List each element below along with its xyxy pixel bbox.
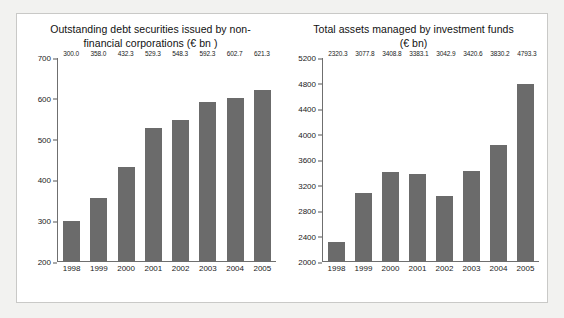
y-axis-tick-label: 2800 <box>298 207 316 216</box>
chart-title: Total assets managed by investment funds… <box>286 22 541 52</box>
chart-total-assets-investment-funds: Total assets managed by investment funds… <box>282 14 547 302</box>
bar: 3830.2 <box>490 145 507 262</box>
x-axis-tick-label: 2003 <box>458 264 485 280</box>
x-axis-tick-label: 2000 <box>377 264 404 280</box>
x-axis-tick-label: 1998 <box>323 264 350 280</box>
bar: 3408.8 <box>382 172 399 262</box>
charts-row: Outstanding debt securities issued by no… <box>17 14 547 302</box>
chart-title-line1: Total assets managed by investment funds <box>286 22 541 36</box>
bar-value-label: 2320.3 <box>328 50 347 57</box>
y-axis-tick-label: 500 <box>38 135 51 144</box>
bar: 3042.9 <box>436 196 453 262</box>
bar-group: 3408.8 <box>377 58 404 262</box>
x-axis-tick-label: 2001 <box>404 264 431 280</box>
x-axis-tick-label: 1999 <box>85 264 112 280</box>
bar: 621.3 <box>254 90 271 262</box>
x-axis-tick-label: 1999 <box>350 264 377 280</box>
x-axis-tick-label: 2002 <box>167 264 194 280</box>
bar-value-label: 621.3 <box>254 50 270 57</box>
y-axis-tick-label: 5200 <box>298 54 316 63</box>
y-axis: 200024002800320036004000440048005200 <box>286 58 322 262</box>
y-axis-tick-label: 3600 <box>298 156 316 165</box>
chart-title-line1: Outstanding debt securities issued by no… <box>23 22 278 36</box>
x-axis-tick-label: 2004 <box>485 264 512 280</box>
bar-group: 4793.3 <box>512 58 539 262</box>
y-axis-tick-label: 3200 <box>298 181 316 190</box>
bar: 358.0 <box>90 198 107 262</box>
bar-group: 3420.6 <box>458 58 485 262</box>
x-axis-tick-label: 2005 <box>249 264 276 280</box>
bar: 3077.8 <box>355 193 372 262</box>
x-axis-tick-label: 2001 <box>140 264 167 280</box>
y-axis-tick-label: 700 <box>38 54 51 63</box>
bar: 2320.3 <box>328 242 345 262</box>
bar-value-label: 3042.9 <box>436 50 455 57</box>
bar: 300.0 <box>63 221 80 262</box>
bar-group: 3830.2 <box>485 58 512 262</box>
bar-value-label: 529.3 <box>145 50 161 57</box>
bar: 3383.1 <box>409 174 426 262</box>
x-axis-tick-label: 2005 <box>512 264 539 280</box>
bar-value-label: 3077.8 <box>355 50 374 57</box>
bar-group: 548.3 <box>167 58 194 262</box>
y-axis-tick-label: 200 <box>38 258 51 267</box>
y-axis-tick-label: 600 <box>38 94 51 103</box>
bar-value-label: 548.3 <box>172 50 188 57</box>
bar-value-label: 592.3 <box>199 50 215 57</box>
bar-group: 529.3 <box>140 58 167 262</box>
chart-outstanding-debt-securities: Outstanding debt securities issued by no… <box>17 14 282 302</box>
bar-value-label: 3420.6 <box>463 50 482 57</box>
bar: 602.7 <box>227 98 244 262</box>
bar-group: 2320.3 <box>323 58 350 262</box>
y-axis: 200300400500600700 <box>23 58 57 262</box>
bars-area: 2320.33077.83408.83383.13042.93420.63830… <box>323 58 539 262</box>
bar-value-label: 3383.1 <box>409 50 428 57</box>
bar-group: 621.3 <box>249 58 276 262</box>
bar-value-label: 4793.3 <box>517 50 536 57</box>
y-axis-tick-label: 4800 <box>298 79 316 88</box>
x-axis-tick-label: 1998 <box>58 264 85 280</box>
bar: 592.3 <box>199 102 216 262</box>
plot-area: 200300400500600700 300.0358.0432.3529.35… <box>23 58 278 286</box>
chart-title-line2: financial corporations (€ bn ) <box>23 36 278 50</box>
bar-value-label: 300.0 <box>63 50 79 57</box>
y-axis-tick-label: 4400 <box>298 105 316 114</box>
figure-panel: Outstanding debt securities issued by no… <box>16 13 548 303</box>
bar-value-label: 602.7 <box>227 50 243 57</box>
bar: 548.3 <box>172 120 189 262</box>
bar-value-label: 432.3 <box>118 50 134 57</box>
bar-group: 592.3 <box>194 58 221 262</box>
x-axis: 19981999200020012002200320042005 <box>323 264 539 280</box>
bar-group: 300.0 <box>58 58 85 262</box>
bar-value-label: 3408.8 <box>382 50 401 57</box>
bar-group: 358.0 <box>85 58 112 262</box>
bar-group: 3077.8 <box>350 58 377 262</box>
bar-group: 432.3 <box>113 58 140 262</box>
y-axis-tick-label: 4000 <box>298 130 316 139</box>
x-axis: 19981999200020012002200320042005 <box>58 264 276 280</box>
y-axis-tick-label: 300 <box>38 217 51 226</box>
plot-area: 200024002800320036004000440048005200 232… <box>286 58 541 286</box>
bar: 4793.3 <box>517 84 534 262</box>
bar-group: 602.7 <box>222 58 249 262</box>
y-axis-tick-label: 2000 <box>298 258 316 267</box>
bar: 529.3 <box>145 128 162 262</box>
bar-value-label: 358.0 <box>90 50 106 57</box>
x-axis-tick-label: 2002 <box>431 264 458 280</box>
y-axis-tick-label: 2400 <box>298 232 316 241</box>
y-axis-tick-label: 400 <box>38 176 51 185</box>
bar-group: 3042.9 <box>431 58 458 262</box>
chart-title: Outstanding debt securities issued by no… <box>23 22 278 52</box>
chart-title-line2: (€ bn) <box>286 36 541 50</box>
bars-area: 300.0358.0432.3529.3548.3592.3602.7621.3 <box>58 58 276 262</box>
bar: 432.3 <box>118 167 135 262</box>
x-axis-tick-label: 2000 <box>113 264 140 280</box>
bar-value-label: 3830.2 <box>490 50 509 57</box>
x-axis-tick-label: 2004 <box>222 264 249 280</box>
bar-group: 3383.1 <box>404 58 431 262</box>
bar: 3420.6 <box>463 171 480 262</box>
x-axis-tick-label: 2003 <box>194 264 221 280</box>
